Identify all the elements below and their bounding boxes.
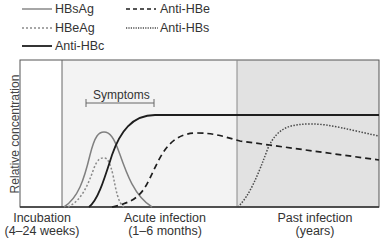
- phase-duration: (years): [265, 225, 365, 238]
- legend-item-anti-hbe: Anti-HBe: [160, 1, 210, 17]
- phase-label-acute: Acute infection (1–6 months): [110, 212, 220, 238]
- past-region: [237, 60, 379, 207]
- phase-label-incubation: Incubation (4–24 weeks): [0, 212, 84, 238]
- symptoms-label: Symptoms: [93, 88, 150, 102]
- y-axis-label: Relative concentration: [8, 59, 22, 209]
- legend-item-hbsag: HBsAg: [55, 1, 94, 17]
- legend-item-hbeag: HBeAg: [55, 20, 95, 36]
- legend-item-anti-hbs: Anti-HBs: [160, 20, 209, 36]
- phase-label-past: Past infection (years): [265, 212, 365, 238]
- legend: HBsAg Anti-HBe HBeAg Anti-HBs Anti-HBc: [0, 0, 384, 56]
- legend-item-anti-hbc: Anti-HBc: [55, 38, 104, 54]
- phase-duration: (4–24 weeks): [0, 225, 84, 238]
- phase-duration: (1–6 months): [110, 225, 220, 238]
- incubation-region: [20, 60, 62, 207]
